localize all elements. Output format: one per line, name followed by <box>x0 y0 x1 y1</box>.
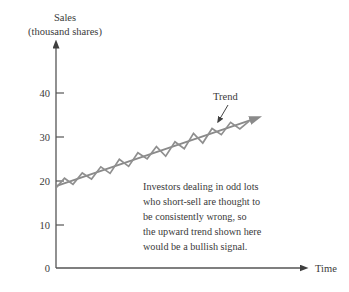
commentary-annotation: Investors dealing in odd lots who short-… <box>143 181 262 252</box>
y-axis-title-line1: Sales <box>54 12 76 23</box>
commentary-line-2: who short-sell are thought to <box>143 196 260 207</box>
chart-figure: Sales (thousand shares) Time 40 30 20 10… <box>0 0 349 292</box>
chart-canvas: Sales (thousand shares) Time 40 30 20 10… <box>0 0 349 292</box>
commentary-line-4: the upward trend shown here <box>143 226 262 237</box>
trend-callout-label: Trend <box>213 91 238 102</box>
y-axis-title-line2: (thousand shares) <box>28 26 102 38</box>
y-tick-label-20: 20 <box>40 176 51 187</box>
y-axis-ticks: 40 30 20 10 0 <box>40 88 65 274</box>
y-tick-label-10: 10 <box>40 220 51 231</box>
x-axis-title: Time <box>315 263 337 274</box>
trend-line <box>56 120 251 186</box>
commentary-line-5: would be a bullish signal. <box>143 241 247 252</box>
y-tick-label-40: 40 <box>40 88 51 99</box>
y-tick-label-30: 30 <box>40 132 51 143</box>
y-tick-label-0: 0 <box>45 263 50 274</box>
commentary-line-1: Investors dealing in odd lots <box>143 181 258 192</box>
commentary-line-3: be consistently wrong, so <box>143 211 247 222</box>
trend-callout-leader-line <box>218 105 228 122</box>
